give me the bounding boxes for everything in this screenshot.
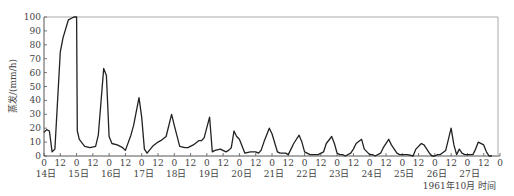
day-label: 25日 bbox=[394, 169, 414, 179]
x-tick-label: 12 bbox=[315, 158, 326, 168]
x-axis-ticks: 0120120120120120120120120120120120120120… bbox=[41, 153, 503, 168]
x-tick-label: 12 bbox=[87, 158, 98, 168]
x-tick-label: 12 bbox=[380, 158, 391, 168]
y-tick-label: 70 bbox=[30, 54, 42, 64]
y-tick-label: 80 bbox=[30, 40, 42, 50]
y-tick-label: 10 bbox=[30, 137, 42, 147]
x-tick-label: 12 bbox=[413, 158, 424, 168]
x-tick-label: 12 bbox=[348, 158, 359, 168]
y-tick-label: 20 bbox=[30, 123, 42, 133]
day-label: 21日 bbox=[264, 169, 284, 179]
x-tick-label: 0 bbox=[302, 158, 308, 168]
x-tick-label: 0 bbox=[334, 158, 340, 168]
x-tick-label: 0 bbox=[367, 158, 373, 168]
x-axis-title: 1961年10月 时间 bbox=[423, 180, 496, 191]
x-tick-label: 12 bbox=[478, 158, 489, 168]
day-label: 15日 bbox=[68, 169, 88, 179]
x-tick-label: 12 bbox=[445, 158, 456, 168]
x-tick-label: 12 bbox=[283, 158, 294, 168]
x-tick-label: 0 bbox=[237, 158, 243, 168]
day-label: 27日 bbox=[459, 169, 479, 179]
day-label: 19日 bbox=[199, 169, 219, 179]
day-labels: 14日15日16日17日18日19日20日21日22日23日24日25日26日2… bbox=[36, 169, 480, 179]
day-label: 26日 bbox=[427, 169, 447, 179]
x-tick-label: 12 bbox=[120, 158, 131, 168]
y-tick-label: 30 bbox=[30, 109, 42, 119]
x-tick-label: 0 bbox=[171, 158, 177, 168]
y-axis-title: 蒸发/(mm/h) bbox=[7, 59, 18, 113]
x-tick-label: 0 bbox=[497, 158, 503, 168]
x-tick-label: 0 bbox=[106, 158, 112, 168]
x-tick-label: 0 bbox=[139, 158, 145, 168]
y-tick-label: 100 bbox=[24, 12, 41, 22]
x-tick-label: 12 bbox=[55, 158, 66, 168]
x-tick-label: 12 bbox=[250, 158, 261, 168]
x-tick-label: 12 bbox=[185, 158, 196, 168]
y-tick-label: 60 bbox=[30, 68, 42, 78]
day-label: 22日 bbox=[296, 169, 316, 179]
y-tick-label: 40 bbox=[30, 95, 42, 105]
x-tick-label: 0 bbox=[204, 158, 210, 168]
x-tick-label: 0 bbox=[74, 158, 80, 168]
day-label: 16日 bbox=[101, 169, 121, 179]
evaporation-line-chart: 0102030405060708090100 01201201201201201… bbox=[0, 0, 514, 196]
evaporation-series-line bbox=[44, 17, 492, 156]
y-tick-label: 90 bbox=[30, 26, 42, 36]
y-tick-label: 50 bbox=[30, 82, 42, 92]
x-tick-label: 12 bbox=[152, 158, 163, 168]
day-label: 18日 bbox=[166, 169, 186, 179]
day-label: 14日 bbox=[36, 169, 56, 179]
day-label: 20日 bbox=[231, 169, 251, 179]
x-tick-label: 0 bbox=[465, 158, 471, 168]
x-tick-label: 12 bbox=[217, 158, 228, 168]
day-label: 24日 bbox=[361, 169, 381, 179]
x-tick-label: 0 bbox=[432, 158, 438, 168]
day-label: 17日 bbox=[133, 169, 153, 179]
x-tick-label: 0 bbox=[269, 158, 275, 168]
x-tick-label: 0 bbox=[41, 158, 47, 168]
x-tick-label: 0 bbox=[399, 158, 405, 168]
day-label: 23日 bbox=[329, 169, 349, 179]
